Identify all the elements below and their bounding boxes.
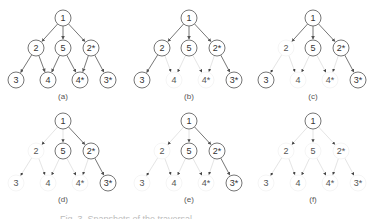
panel-label-b: (b) (184, 92, 194, 101)
edge-2s-4s (333, 56, 338, 72)
edge-2s-3s (345, 55, 354, 72)
node-1: 1 (305, 113, 321, 129)
svg-text:3: 3 (263, 75, 268, 85)
node-2: 2 (278, 40, 294, 56)
node-2s: 2* (333, 143, 349, 159)
svg-text:5: 5 (60, 43, 65, 53)
edge-1-2 (42, 24, 58, 41)
node-3s: 3* (100, 72, 116, 88)
svg-text:5: 5 (186, 43, 191, 53)
svg-text:2*: 2* (213, 146, 222, 156)
edge-2s-3s (221, 158, 230, 175)
edge-2-3 (147, 55, 158, 73)
svg-text:3: 3 (263, 178, 268, 188)
node-4s: 4* (72, 175, 88, 191)
node-4: 4 (166, 175, 182, 191)
node-4: 4 (40, 175, 56, 191)
svg-text:4*: 4* (76, 75, 85, 85)
svg-text:4: 4 (171, 178, 176, 188)
svg-text:3*: 3* (230, 178, 239, 188)
edge-1-2 (168, 24, 184, 41)
edge-2-4 (289, 55, 295, 71)
node-4: 4 (40, 72, 56, 88)
edge-1-2s (318, 127, 334, 145)
edge-2s-4s (83, 159, 88, 175)
node-4: 4 (166, 72, 182, 88)
edge-2-4 (165, 55, 171, 71)
node-2: 2 (154, 40, 170, 56)
svg-text:5: 5 (310, 43, 315, 53)
panel-d: 1252*344*3* (8, 113, 116, 191)
svg-text:3: 3 (139, 178, 144, 188)
svg-text:5: 5 (60, 146, 65, 156)
node-1: 1 (181, 10, 197, 26)
svg-text:1: 1 (310, 13, 315, 23)
edge-2-3 (271, 158, 282, 176)
edge-1-2s (194, 24, 210, 42)
edge-2-4 (39, 55, 45, 71)
node-2s: 2* (83, 143, 99, 159)
edge-5-4s (67, 55, 76, 72)
svg-text:4*: 4* (326, 75, 335, 85)
panel-b: 1252*344*3* (134, 10, 242, 88)
svg-text:1: 1 (310, 116, 315, 126)
node-2s: 2* (209, 143, 225, 159)
svg-text:2*: 2* (337, 43, 346, 53)
edge-2s-4s (333, 159, 338, 175)
edge-5-4 (52, 158, 60, 175)
svg-text:4: 4 (45, 75, 50, 85)
svg-text:2: 2 (283, 146, 288, 156)
svg-text:5: 5 (186, 146, 191, 156)
node-4s: 4* (72, 72, 88, 88)
edge-5-4 (302, 55, 310, 72)
svg-text:4: 4 (295, 75, 300, 85)
node-3: 3 (258, 175, 274, 191)
panel-a: 1252*344*3* (8, 10, 116, 88)
edge-5-4 (178, 55, 186, 72)
edge-2-4 (165, 158, 171, 174)
node-3: 3 (8, 72, 24, 88)
svg-text:3*: 3* (354, 75, 363, 85)
svg-text:4*: 4* (76, 178, 85, 188)
svg-text:3: 3 (139, 75, 144, 85)
panel-c: 1252*344*3* (258, 10, 366, 88)
edge-2-3 (21, 158, 32, 176)
svg-text:2*: 2* (337, 146, 346, 156)
panel-e: 1252*344*3* (134, 113, 242, 191)
svg-text:2: 2 (159, 146, 164, 156)
node-5: 5 (181, 143, 197, 159)
node-5: 5 (305, 40, 321, 56)
edge-2-3 (21, 55, 32, 73)
node-1: 1 (55, 113, 71, 129)
edge-5-4 (178, 158, 186, 175)
svg-text:3*: 3* (230, 75, 239, 85)
edge-1-2 (42, 127, 58, 144)
node-3: 3 (134, 72, 150, 88)
edge-2-3 (147, 158, 158, 176)
edge-2s-4s (209, 56, 214, 72)
node-1: 1 (55, 10, 71, 26)
edge-1-2 (168, 127, 184, 144)
edge-2s-4s (209, 159, 214, 175)
node-3: 3 (258, 72, 274, 88)
svg-text:2: 2 (159, 43, 164, 53)
node-2s: 2* (333, 40, 349, 56)
node-3s: 3* (226, 72, 242, 88)
node-5: 5 (181, 40, 197, 56)
edge-5-4 (302, 158, 310, 175)
edge-5-4s (317, 55, 326, 72)
svg-text:3: 3 (13, 178, 18, 188)
traversal-diagram: 1252*344*3*1252*344*3*1252*344*3*1252*34… (0, 0, 378, 219)
svg-text:1: 1 (60, 13, 65, 23)
node-4s: 4* (198, 72, 214, 88)
edge-2s-3s (95, 55, 104, 72)
edge-5-4s (193, 158, 202, 175)
svg-text:4: 4 (295, 178, 300, 188)
node-5: 5 (55, 143, 71, 159)
node-3s: 3* (100, 175, 116, 191)
svg-text:2*: 2* (213, 43, 222, 53)
edge-1-2 (292, 127, 308, 144)
svg-text:2: 2 (283, 43, 288, 53)
node-1: 1 (181, 113, 197, 129)
node-4: 4 (290, 72, 306, 88)
